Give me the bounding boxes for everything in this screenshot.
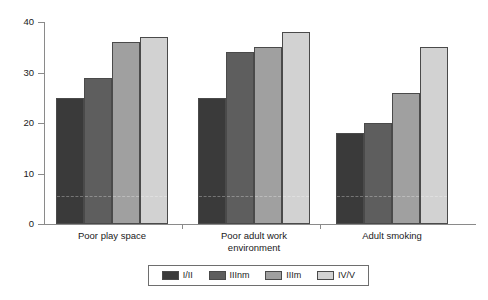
bar-I-II-1: [56, 98, 84, 224]
legend-item-IIInm[interactable]: IIInm: [209, 271, 250, 280]
bar-IV-V-3: [420, 47, 448, 224]
bar-inner-rule: [393, 196, 419, 198]
y-axis-tick-label: 20: [8, 118, 34, 128]
y-axis-tick-label: 30: [8, 68, 34, 78]
legend-item-I-II[interactable]: I/II: [162, 271, 193, 280]
x-axis-line: [44, 224, 476, 225]
legend-swatch-icon: [209, 271, 226, 280]
bar-inner-rule: [113, 196, 139, 198]
y-axis-tick: [38, 224, 44, 225]
bar-inner-rule: [57, 196, 83, 198]
bar-IIIm-3: [392, 93, 420, 224]
legend-item-label: IIIm: [286, 271, 301, 280]
x-axis-tick: [182, 224, 183, 229]
bar-inner-rule: [85, 196, 111, 198]
bar-IIInm-2: [226, 52, 254, 224]
legend-swatch-icon: [162, 271, 179, 280]
bar-inner-rule: [337, 196, 363, 198]
x-axis-tick: [320, 224, 321, 229]
legend-item-IIIm[interactable]: IIIm: [265, 271, 301, 280]
legend-swatch-icon: [265, 271, 282, 280]
bar-inner-rule: [283, 196, 309, 198]
x-axis-category-label-3: Adult smoking: [322, 230, 462, 242]
bar-inner-rule: [421, 196, 447, 198]
x-axis-category-label-2: Poor adult work environment: [184, 230, 324, 253]
bars-layer: [44, 22, 476, 224]
bar-inner-rule: [141, 196, 167, 198]
bar-IIInm-1: [84, 78, 112, 224]
legend-swatch-icon: [317, 271, 334, 280]
bar-IV-V-1: [140, 37, 168, 224]
bar-I-II-3: [336, 133, 364, 224]
legend-item-label: IV/V: [338, 271, 355, 280]
bar-IIIm-1: [112, 42, 140, 224]
bar-IV-V-2: [282, 32, 310, 224]
bar-chart: 010203040 Poor play spacePoor adult work…: [0, 0, 488, 300]
bar-IIInm-3: [364, 123, 392, 224]
bar-I-II-2: [198, 98, 226, 224]
legend-item-label: IIInm: [230, 271, 250, 280]
bar-inner-rule: [365, 196, 391, 198]
bar-inner-rule: [199, 196, 225, 198]
y-axis-tick-label: 10: [8, 169, 34, 179]
legend-item-label: I/II: [183, 271, 193, 280]
y-axis-tick-label: 0: [8, 219, 34, 229]
x-axis-category-label-1: Poor play space: [42, 230, 182, 242]
y-axis-tick-label: 40: [8, 17, 34, 27]
bar-IIIm-2: [254, 47, 282, 224]
bar-inner-rule: [255, 196, 281, 198]
legend-item-IV-V[interactable]: IV/V: [317, 271, 355, 280]
chart-legend: I/IIIIInmIIImIV/V: [148, 265, 369, 286]
bar-inner-rule: [227, 196, 253, 198]
